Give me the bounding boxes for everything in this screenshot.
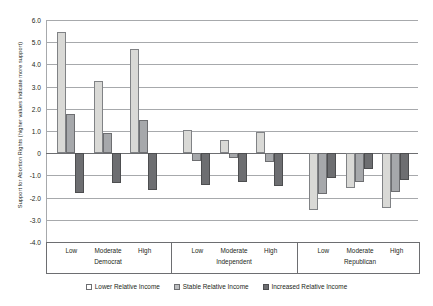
bar (265, 153, 274, 162)
x-axis-level-label: Low (317, 247, 329, 254)
legend-item: Increased Relative Income (263, 283, 348, 290)
legend-swatch-icon (174, 284, 180, 290)
bar (400, 153, 409, 180)
legend-label: Lower Relative Income (95, 283, 160, 290)
y-tick-label: 1.0 (32, 128, 41, 135)
y-tick-label: 4.0 (32, 61, 41, 68)
x-axis-party-label: Republican (344, 258, 376, 265)
chart-legend: Lower Relative IncomeStable Relative Inc… (0, 283, 433, 290)
bar (66, 114, 75, 153)
legend-item: Stable Relative Income (174, 283, 249, 290)
bar (94, 81, 103, 153)
x-axis-level-label: Low (65, 247, 77, 254)
legend-label: Stable Relative Income (183, 283, 249, 290)
y-tick-label: -1.0 (30, 172, 41, 179)
bar (256, 132, 265, 153)
legend-item: Lower Relative Income (86, 283, 160, 290)
x-axis-level-label: High (390, 247, 403, 254)
x-axis-level-label: High (264, 247, 277, 254)
x-axis-party-label: Democrat (94, 258, 122, 265)
y-tick-label: 5.0 (32, 39, 41, 46)
bar (318, 153, 327, 194)
category-separator (171, 243, 172, 273)
bar (309, 153, 318, 210)
y-tick-label: 3.0 (32, 83, 41, 90)
y-tick-label: 2.0 (32, 105, 41, 112)
legend-label: Increased Relative Income (272, 283, 348, 290)
y-tick-label: -2.0 (30, 194, 41, 201)
bar (391, 153, 400, 192)
bar (229, 153, 238, 157)
plot-area: 6.05.04.03.02.01.00-1.0-2.0-3.0-4.0 (46, 20, 418, 242)
bar-series-container (46, 20, 418, 242)
x-axis-party-label: Independent (216, 258, 252, 265)
bar (139, 120, 148, 153)
bar (57, 32, 66, 153)
legend-swatch-icon (86, 284, 92, 290)
legend-swatch-icon (263, 284, 269, 290)
x-axis-level-label: High (138, 247, 151, 254)
bar (112, 153, 121, 183)
bar (103, 133, 112, 153)
bar (382, 153, 391, 207)
bar (355, 153, 364, 182)
bar-chart: Support for Abortion Rights (higher valu… (0, 0, 433, 306)
y-axis-title: Support for Abortion Rights (higher valu… (17, 9, 23, 241)
bar (327, 153, 336, 177)
x-axis-level-label: Moderate (347, 247, 374, 254)
bar (183, 130, 192, 153)
y-tick-label: -4.0 (30, 239, 41, 246)
bar (238, 153, 247, 182)
y-tick-label: 6.0 (32, 17, 41, 24)
bar (201, 153, 210, 185)
bar (220, 140, 229, 153)
bar (346, 153, 355, 187)
x-axis-level-label: Moderate (221, 247, 248, 254)
category-separator (297, 243, 298, 273)
bar (148, 153, 157, 190)
bar (75, 153, 84, 193)
bar (274, 153, 283, 186)
bar (192, 153, 201, 161)
y-tick-label: -3.0 (30, 216, 41, 223)
x-axis-level-label: Moderate (95, 247, 122, 254)
y-tick-label: 0 (37, 150, 41, 157)
x-axis-level-label: Low (191, 247, 203, 254)
bar (130, 49, 139, 153)
bar (364, 153, 373, 169)
x-axis-category-band: LowModerateHighDemocratLowModerateHighIn… (46, 242, 420, 274)
